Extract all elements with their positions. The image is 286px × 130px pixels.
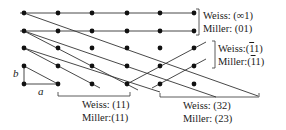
label-32: Weiss: (32) Miller: (23) [183,99,232,125]
weiss-bar11-suffix: 1) [254,43,263,54]
label-inf1: Weiss: (∞1) Miller: (01) [203,9,253,35]
axis-a-label: a [38,85,44,97]
label-11: Weiss: (11) Miller:(11) [82,98,129,124]
weiss-inf1: Weiss: (∞1) [203,9,253,22]
miller-bar11: Miller:(11) [218,55,264,68]
weiss-32: Weiss: (32) [183,99,232,112]
line-11-c [24,66,58,84]
miller-inf1: Miller: (01) [203,22,253,35]
miller-bar11-suffix: 1) [256,56,265,67]
weiss-bar11: Weiss:(11) [218,42,264,55]
bracket-11 [58,92,130,96]
weiss-11: Weiss: (11) [82,98,129,111]
miller-32: Miller: (23) [183,112,232,125]
bracket-inf1 [196,9,199,35]
lattice-diagram: b a Weiss: (∞1) Miller: (01) Weiss:(11) … [0,0,286,130]
axis-b-label: b [13,67,19,79]
miller-bar11-prefix: Miller:( [218,56,251,67]
line-11-b [24,48,100,88]
miller-11: Miller:(11) [82,111,129,124]
line-11-a [24,31,138,90]
label-bar11: Weiss:(11) Miller:(11) [218,42,264,68]
weiss-bar11-prefix: Weiss:( [218,43,249,54]
line-32-b [24,31,216,97]
bracket-bar11 [212,41,215,68]
